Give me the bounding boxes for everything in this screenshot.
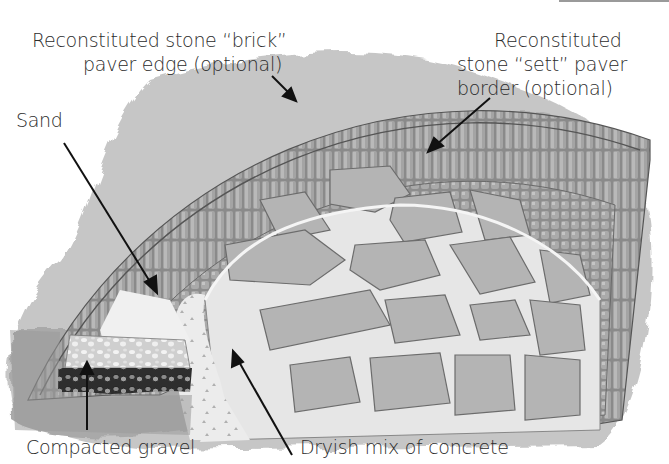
label-dryish-concrete: Dryish mix of concrete xyxy=(300,435,509,459)
label-line: stone “sett” paver xyxy=(457,52,627,76)
label-line: Reconstituted stone “brick” xyxy=(32,28,282,52)
label-line: Reconstituted xyxy=(490,28,627,52)
diagram-canvas: Reconstituted stone “brick” paver edge (… xyxy=(0,0,669,464)
label-line: paver edge (optional) xyxy=(32,52,282,76)
label-sand: Sand xyxy=(16,108,63,132)
label-brick-paver-edge: Reconstituted stone “brick” paver edge (… xyxy=(32,28,282,76)
label-line: border (optional) xyxy=(457,76,627,100)
label-line: Compacted gravel xyxy=(26,435,195,459)
label-sett-paver-border: Reconstituted stone “sett” paver border … xyxy=(490,28,627,100)
label-compacted-gravel: Compacted gravel xyxy=(26,435,195,459)
label-line: Dryish mix of concrete xyxy=(300,435,509,459)
label-line: Sand xyxy=(16,108,63,132)
